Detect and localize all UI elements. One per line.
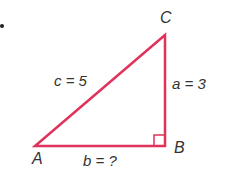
side-label-b: b = ?: [83, 153, 117, 169]
triangle-abc: [35, 35, 165, 146]
vertex-label-b: B: [174, 140, 185, 156]
vertex-label-c: C: [160, 10, 172, 26]
side-label-c: c = 5: [54, 73, 87, 89]
vertex-label-a: A: [32, 151, 43, 167]
right-angle-marker: [154, 135, 165, 146]
side-label-a: a = 3: [172, 76, 206, 92]
